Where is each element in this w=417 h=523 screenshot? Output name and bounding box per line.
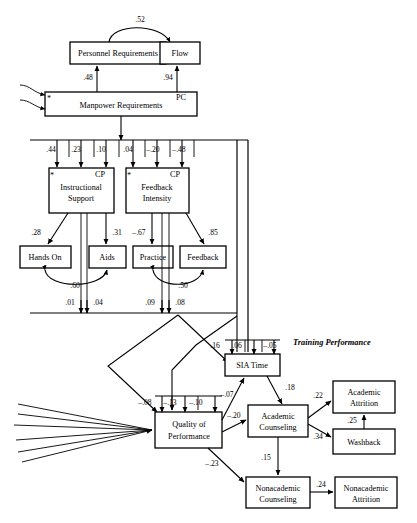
node-aids: Aids <box>89 246 126 268</box>
coef-manpower-to-personnel: .48 <box>83 73 93 82</box>
coef-nonacademic-counseling-to-attrition: .24 <box>316 480 326 489</box>
coef-qop-to-sia: –.07 <box>219 390 233 399</box>
coef-sia-in-2: .06 <box>232 341 242 350</box>
coef-bus2-c3: .09 <box>145 298 155 307</box>
coef-bus1-c3: .10 <box>96 145 106 154</box>
star-marker-instructional-support: * <box>50 171 54 180</box>
node-sia-time: SIA Time <box>225 354 280 376</box>
coef-flow-personnel-corr: .52 <box>135 15 145 24</box>
node-nonacademic-attrition-line2: Attrition <box>352 495 380 504</box>
node-feedback-intensity-line1: Feedback <box>141 183 173 192</box>
coef-feedint-to-practice: –.67 <box>131 228 145 237</box>
node-nonacademic-counseling-line1: Nonacademic <box>255 484 300 493</box>
node-aids-label: Aids <box>99 253 114 262</box>
node-hands-on-label: Hands On <box>29 253 62 262</box>
coef-qop-in-1: –.08 <box>137 398 151 407</box>
edge-academic-counseling-to-attrition <box>308 401 331 418</box>
node-quality-of-performance-line2: Performance <box>168 432 210 441</box>
coef-qop-to-nonacademic-counseling: –.23 <box>204 459 218 468</box>
edge-instr-to-hands-on <box>48 213 68 244</box>
node-nonacademic-attrition-line1: Nonacademic <box>343 484 388 493</box>
coef-washback-to-attrition: .25 <box>347 416 357 425</box>
star-marker-feedback-intensity: * <box>127 171 131 180</box>
node-instructional-support-line2: Support <box>68 194 95 203</box>
node-nonacademic-counseling: Nonacademic Counseling <box>246 477 310 508</box>
cp-marker-feedback-intensity: CP <box>170 170 180 179</box>
coef-sia-to-academic-counseling: .18 <box>285 383 295 392</box>
coef-bus1-c4: .04 <box>123 145 133 154</box>
coef-instr-to-aids: .31 <box>112 228 122 237</box>
star-marker-manpower: * <box>47 94 51 103</box>
cp-marker-instructional-support: CP <box>95 170 105 179</box>
coef-bus1-c6: –.48 <box>171 145 185 154</box>
coef-bus2-c2: .04 <box>93 298 103 307</box>
coef-instr-to-hands-on: .28 <box>31 228 41 237</box>
coef-qop-in-3: –.10 <box>188 398 202 407</box>
coef-bus2-c1: .01 <box>65 298 75 307</box>
coef-bus1-c1: .44 <box>46 145 56 154</box>
node-flow: Flow <box>160 42 200 64</box>
coef-practice-feedback-corr: .50 <box>178 281 188 290</box>
node-manpower-requirements: Manpower Requirements * PC <box>45 92 197 116</box>
node-washback: Washback <box>333 429 395 454</box>
coef-academic-counseling-to-nonacademic: .15 <box>261 453 271 462</box>
node-feedback-label: Feedback <box>187 253 219 262</box>
coef-academic-counseling-to-attrition: .22 <box>313 391 323 400</box>
coef-academic-counseling-to-washback: .34 <box>313 432 323 441</box>
node-academic-counseling: Academic Counseling <box>248 405 308 437</box>
coef-qop-to-academic-counseling: –.20 <box>226 411 240 420</box>
node-academic-attrition-line1: Academic <box>347 388 381 397</box>
coef-hands-aids-corr: .60 <box>70 281 80 290</box>
node-feedback-intensity: Feedback Intensity * CP <box>126 168 189 213</box>
coef-sia-in-3: –.05 <box>262 341 276 350</box>
node-nonacademic-counseling-line2: Counseling <box>259 495 296 504</box>
node-instructional-support-line1: Instructional <box>60 183 102 192</box>
node-feedback: Feedback <box>180 246 226 268</box>
node-sia-time-label: SIA Time <box>236 361 268 370</box>
node-instructional-support: Instructional Support * CP <box>49 168 114 213</box>
coef-manpower-to-flow: .94 <box>163 73 173 82</box>
node-academic-counseling-line2: Counseling <box>259 423 296 432</box>
node-hands-on: Hands On <box>20 246 71 268</box>
node-personnel-requirements-label: Personnel Requirements <box>78 49 158 58</box>
exogenous-fan-qop <box>14 404 152 462</box>
node-academic-attrition: Academic Attrition <box>333 381 395 413</box>
section-label-training-performance: Training Performance <box>293 338 371 347</box>
coef-bus1-c2: .23 <box>71 145 81 154</box>
edge-qop-to-academic-counseling <box>222 420 246 432</box>
coef-qop-in-2: –.13 <box>162 398 176 407</box>
node-quality-of-performance-line1: Quality of <box>172 420 206 429</box>
path-diagram-canvas: .52 Personnel Requirements Flow Manpower… <box>0 0 417 523</box>
node-personnel-requirements: Personnel Requirements <box>70 42 166 64</box>
node-nonacademic-attrition: Nonacademic Attrition <box>335 477 397 508</box>
coef-bus2-c4: .08 <box>175 298 185 307</box>
coef-feedint-to-feedback: .85 <box>208 228 218 237</box>
node-academic-attrition-line2: Attrition <box>350 399 378 408</box>
exogenous-squiggles-manpower <box>20 85 45 109</box>
node-feedback-intensity-line2: Intensity <box>143 194 173 203</box>
node-washback-label: Washback <box>347 438 381 447</box>
coef-bus1-c5: –.20 <box>145 145 159 154</box>
node-practice-label: Practice <box>140 253 167 262</box>
node-academic-counseling-line1: Academic <box>261 412 295 421</box>
pc-marker-manpower: PC <box>176 93 187 102</box>
correlation-arc-personnel-flow <box>109 28 170 42</box>
node-practice: Practice <box>133 246 173 268</box>
node-manpower-requirements-label: Manpower Requirements <box>80 101 163 110</box>
edge-sia-to-academic-counseling <box>267 376 282 404</box>
edge-feedint-to-feedback <box>186 213 204 244</box>
node-quality-of-performance: Quality of Performance <box>155 412 222 448</box>
coef-sia-in-1: .16 <box>210 341 220 350</box>
node-flow-label: Flow <box>172 49 189 58</box>
